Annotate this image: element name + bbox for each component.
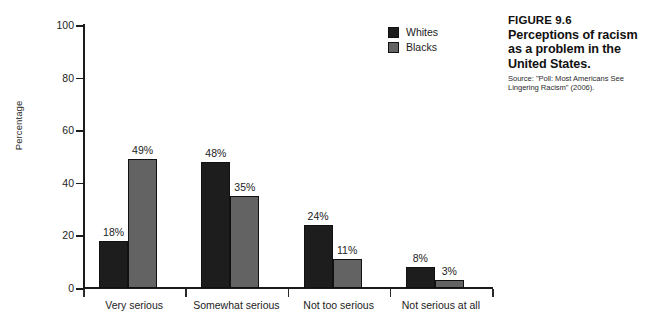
legend-item: Blacks: [388, 41, 438, 53]
bar-whites-0: [99, 241, 128, 288]
plot-area: 18%49%48%35%24%11%8%3%: [83, 25, 492, 288]
x-axis-divider-tick: [83, 289, 85, 297]
figure-caption: FIGURE 9.6 Perceptions of racism as a pr…: [508, 14, 648, 92]
bar-blacks-2: [333, 259, 362, 288]
y-axis-tick-label: 20: [62, 229, 74, 241]
caption-title: Perceptions of racism as a problem in th…: [508, 28, 648, 72]
bar-chart: Percentage 020406080100 18%49%48%35%24%1…: [0, 0, 500, 322]
x-axis-category-label: Not serious at all: [402, 299, 480, 311]
y-axis-tick-mark: [76, 288, 83, 290]
y-axis-title: Percentage: [13, 81, 24, 171]
x-axis-divider-tick: [185, 289, 187, 297]
legend-label: Blacks: [406, 41, 437, 53]
bar-group: 8%3%: [390, 25, 492, 288]
legend-swatch-icon: [388, 42, 399, 53]
bar-blacks-3: [435, 280, 464, 288]
bar-value-label: 18%: [103, 226, 124, 238]
x-axis-divider-tick: [288, 289, 290, 297]
figure-container: Percentage 020406080100 18%49%48%35%24%1…: [0, 0, 653, 322]
y-axis-tick-mark: [76, 183, 83, 185]
bar-group: 24%11%: [288, 25, 390, 288]
bar-value-label: 8%: [413, 252, 428, 264]
bar-whites-1: [201, 162, 230, 288]
caption-source: Source: "Poll: Most Americans See Linger…: [508, 74, 648, 92]
x-axis-category-label: Somewhat serious: [193, 299, 279, 311]
legend-label: Whites: [406, 26, 438, 38]
bar-value-label: 35%: [234, 181, 255, 193]
bar-whites-3: [406, 267, 435, 288]
y-axis-tick-label: 80: [62, 72, 74, 84]
x-axis-divider-tick: [390, 289, 392, 297]
bar-value-label: 3%: [442, 265, 457, 277]
y-axis-tick-mark: [76, 25, 83, 27]
bar-group: 48%35%: [185, 25, 287, 288]
y-axis-tick-label: 0: [68, 282, 74, 294]
y-axis-tick-mark: [76, 235, 83, 237]
x-axis-category-label: Not too serious: [303, 299, 374, 311]
chart-legend: WhitesBlacks: [388, 26, 438, 56]
bar-whites-2: [304, 225, 333, 288]
bar-value-label: 48%: [205, 147, 226, 159]
y-axis-tick-mark: [76, 78, 83, 80]
legend-item: Whites: [388, 26, 438, 38]
legend-swatch-icon: [388, 27, 399, 38]
bar-group: 18%49%: [83, 25, 185, 288]
x-axis-divider-tick: [492, 289, 494, 297]
x-axis-category-label: Very serious: [105, 299, 163, 311]
bar-value-label: 11%: [337, 244, 357, 256]
y-axis-tick-label: 40: [62, 177, 74, 189]
bar-blacks-1: [230, 196, 259, 288]
bar-value-label: 49%: [132, 144, 153, 156]
y-axis-tick-label: 60: [62, 124, 74, 136]
y-axis-tick-mark: [76, 130, 83, 132]
caption-figure-number: FIGURE 9.6: [508, 14, 648, 28]
bar-value-label: 24%: [308, 210, 329, 222]
bar-blacks-0: [128, 159, 157, 288]
y-axis-tick-label: 100: [56, 19, 74, 31]
